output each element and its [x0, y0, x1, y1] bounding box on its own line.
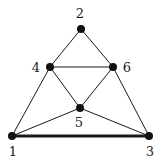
node-label-2: 2 — [76, 6, 84, 21]
graph-diagram: 123456 — [0, 0, 162, 162]
edge-6-3 — [113, 67, 149, 136]
node-label-1: 1 — [9, 144, 17, 159]
edge-4-5 — [50, 67, 80, 108]
edge-6-5 — [80, 67, 113, 108]
edge-5-3 — [80, 108, 149, 136]
node-label-5: 5 — [75, 115, 83, 130]
node-1 — [8, 132, 16, 140]
edge-2-6 — [81, 29, 113, 67]
node-5 — [76, 104, 84, 112]
edge-1-5 — [12, 108, 80, 136]
node-6 — [109, 63, 117, 71]
edge-1-4 — [12, 67, 50, 136]
node-4 — [46, 63, 54, 71]
node-3 — [145, 132, 153, 140]
node-2 — [77, 25, 85, 33]
node-label-6: 6 — [123, 60, 131, 75]
node-label-3: 3 — [146, 144, 154, 159]
node-label-4: 4 — [32, 60, 40, 75]
edge-4-2 — [50, 29, 81, 67]
